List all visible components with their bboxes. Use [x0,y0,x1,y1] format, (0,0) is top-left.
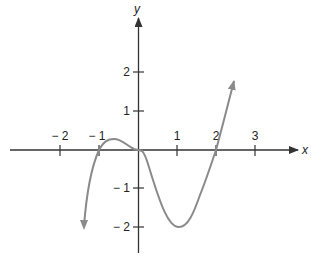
curve-arrow-left [80,220,88,230]
y-tick-label-1: 1 [123,104,130,118]
y-tick-label-minus-2: − 2 [113,220,130,234]
x-tick-label-minus-2: − 2 [51,129,68,143]
x-tick-label-1: 1 [174,129,181,143]
function-graph: − 2 − 1 1 2 3 2 1 − 1 − 2 x y [0,0,311,257]
y-tick-label-minus-1: − 1 [113,181,130,195]
y-axis-label: y [133,2,141,16]
function-curve [84,81,234,227]
x-tick-label-3: 3 [252,129,259,143]
x-axis-label: x [301,143,309,157]
x-tick-label-minus-1: − 1 [88,129,105,143]
y-tick-label-2: 2 [123,65,130,79]
